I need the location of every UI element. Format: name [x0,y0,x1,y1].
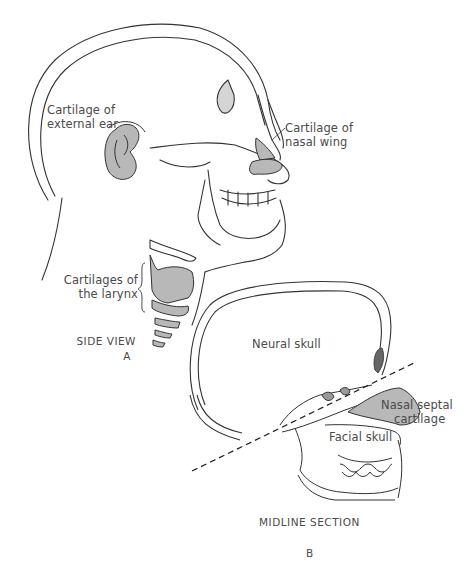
panel-letter-b: B [306,547,314,559]
label-facial-skull: Facial skull [329,430,392,444]
label-larynx-cartilages: Cartilages ofthe larynx [60,273,138,301]
caption-midline-section: MIDLINE SECTION [259,516,360,528]
panel-letter-a: A [60,350,131,362]
larynx-thyroid-cartilage [150,255,194,303]
label-neural-skull: Neural skull [252,337,321,351]
label-nasal-septal-cartilage: Nasal septalcartilage [381,398,453,426]
caption-side-view: SIDE VIEW [60,335,136,347]
label-nasal-wing-cartilage: Cartilage ofnasal wing [285,121,353,149]
label-ear-cartilage: Cartilage ofexternal ear [47,103,118,131]
nasal-wing-cartilage [256,138,275,160]
ear-cartilage [105,124,139,179]
